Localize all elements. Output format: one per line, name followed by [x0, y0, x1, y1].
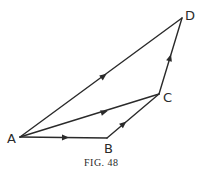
vector-diagram: A B C D FIG. 48 — [0, 0, 201, 174]
point-label-b: B — [104, 141, 113, 156]
point-label-a: A — [7, 131, 16, 146]
point-label-c: C — [163, 90, 172, 105]
point-label-d: D — [185, 8, 195, 23]
arrowhead-ab-icon — [62, 135, 69, 141]
figure-caption: FIG. 48 — [84, 157, 119, 168]
vector-ac-line — [20, 94, 159, 137]
arrowhead-ac-icon — [100, 108, 108, 116]
vector-bc-line — [107, 94, 159, 138]
arrowhead-cd-icon — [166, 53, 174, 61]
